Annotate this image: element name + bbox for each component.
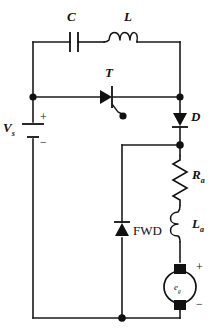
resistor-ra-zigzag: [173, 155, 187, 206]
back-emf-label-subscript: g: [178, 288, 181, 294]
node-diode-fwd: [176, 141, 184, 149]
fwd-label: FWD: [133, 224, 162, 237]
armature-resistance-label-main: R: [192, 167, 201, 182]
inductor-la-coil: [171, 206, 181, 242]
armature-inductance-label: La: [192, 217, 204, 234]
supply-plus-sign: +: [40, 111, 47, 123]
diode-d-triangle: [173, 113, 187, 126]
back-emf-minus-sign: −: [196, 298, 203, 310]
thyristor-gate-wire: [112, 104, 122, 114]
thyristor-triangle: [100, 90, 112, 104]
fwd-triangle: [115, 223, 129, 236]
supply-label-subscript: s: [12, 129, 15, 138]
inductor-label: L: [124, 10, 132, 23]
node-left-thyristor: [29, 93, 36, 100]
inductor-coil: [104, 33, 137, 43]
back-emf-label: eg: [174, 283, 181, 294]
circuit-svg: [0, 0, 221, 336]
supply-minus-sign: −: [40, 136, 47, 148]
emf-terminal-top: [174, 264, 186, 274]
supply-label-main: V: [3, 120, 12, 135]
circuit-diagram: C L T D FWD Vs + − Ra La eg + −: [0, 0, 221, 336]
armature-inductance-label-main: L: [192, 216, 200, 231]
armature-resistance-label: Ra: [192, 168, 205, 185]
back-emf-plus-sign: +: [196, 261, 203, 273]
diode-label: D: [191, 110, 200, 123]
armature-inductance-label-subscript: a: [200, 225, 204, 234]
armature-resistance-label-subscript: a: [201, 176, 205, 185]
node-right-thyristor: [176, 93, 183, 100]
capacitor-label: C: [67, 10, 76, 23]
emf-terminal-bottom: [174, 300, 186, 310]
thyristor-gate-terminal: [119, 112, 126, 119]
supply-label: Vs: [3, 121, 15, 138]
node-bottom-fwd: [118, 314, 126, 322]
thyristor-label: T: [105, 66, 113, 79]
